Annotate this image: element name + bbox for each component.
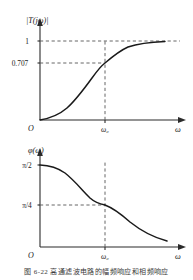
phase-x-axis [40, 244, 186, 250]
phase-xlabel-omega0: ω₀ [101, 252, 109, 261]
magnitude-x-axis [40, 117, 186, 123]
magnitude-ylabel-0707: 0.707 [12, 59, 29, 68]
figure-caption: 图 6-22 高通滤波电路的幅频响应和相频响应 [0, 266, 193, 276]
phase-ylabel-half-pi: π/2 [22, 161, 32, 170]
phase-curve [40, 165, 167, 241]
magnitude-response-chart: |T(jω)| ω 1 0.707 ω₀ O [0, 0, 193, 135]
magnitude-response-svg: |T(jω)| ω 1 0.707 ω₀ O [0, 0, 193, 135]
phase-x-axis-label: ω [175, 252, 181, 261]
magnitude-y-axis-label: |T(jω)| [26, 16, 49, 25]
phase-response-svg: φ(ω) ω π/2 π/4 ω₀ O [0, 132, 193, 262]
magnitude-ylabel-1: 1 [25, 37, 29, 46]
phase-ylabel-quarter-pi: π/4 [22, 201, 32, 210]
figure-container: |T(jω)| ω 1 0.707 ω₀ O [0, 0, 193, 280]
magnitude-y-axis [37, 18, 43, 120]
phase-response-chart: φ(ω) ω π/2 π/4 ω₀ O [0, 132, 193, 262]
phase-y-axis [37, 148, 43, 247]
phase-y-axis-label: φ(ω) [28, 146, 44, 155]
magnitude-curve [40, 41, 165, 120]
phase-origin-label: O [28, 251, 34, 260]
